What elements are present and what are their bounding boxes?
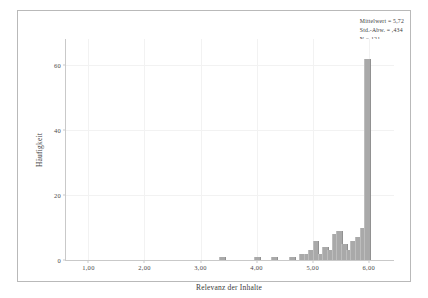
x-axis-tick-label: 6,00 — [362, 264, 375, 271]
y-axis-title: Häufigkeit — [35, 133, 44, 167]
y-axis-tick-label: 0 — [57, 257, 61, 264]
x-axis-tick-label: 5,00 — [306, 264, 319, 271]
x-axis-tick-mark — [368, 260, 369, 263]
gridline-vertical — [144, 39, 145, 260]
gridline-vertical — [313, 39, 314, 260]
gridline-horizontal — [66, 195, 394, 196]
stat-mean: Mittelwert = 5,72 — [360, 17, 404, 26]
gridline-horizontal — [66, 65, 394, 66]
x-axis-title: Relevanz der Inhalte — [196, 283, 262, 292]
x-axis-tick-label: 2,00 — [138, 264, 151, 271]
y-axis-tick-mark — [63, 195, 66, 196]
histogram-bar — [289, 257, 296, 260]
x-axis-tick-mark — [256, 260, 257, 263]
x-axis-tick-mark — [88, 260, 89, 263]
y-axis-tick-label: 20 — [54, 192, 61, 199]
y-axis-tick-label: 60 — [54, 62, 61, 69]
figure-frame: Mittelwert = 5,72 Std.-Abw. = ,434 N = 1… — [17, 10, 411, 282]
stat-std: Std.-Abw. = ,434 — [360, 26, 404, 35]
x-axis-tick-label: 1,00 — [82, 264, 95, 271]
histogram-bar — [364, 59, 371, 261]
y-axis-tick-label: 40 — [54, 127, 61, 134]
gridline-vertical — [257, 39, 258, 260]
histogram-bar — [254, 257, 261, 260]
y-axis-tick-mark — [63, 65, 66, 66]
y-axis-tick-mark — [63, 260, 66, 261]
x-axis-tick-mark — [144, 260, 145, 263]
histogram-bar — [271, 257, 278, 260]
gridline-horizontal — [66, 130, 394, 131]
x-axis-tick-mark — [200, 260, 201, 263]
histogram-bar — [219, 257, 226, 260]
y-axis-tick-mark — [63, 130, 66, 131]
x-axis-tick-label: 3,00 — [194, 264, 207, 271]
x-axis-tick-mark — [312, 260, 313, 263]
plot-area: 02040601,002,003,004,005,006,00 — [65, 39, 394, 261]
gridline-vertical — [88, 39, 89, 260]
x-axis-tick-label: 4,00 — [250, 264, 263, 271]
gridline-vertical — [201, 39, 202, 260]
